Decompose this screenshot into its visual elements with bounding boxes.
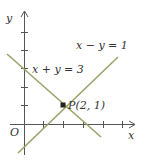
point-p-label: P(2, 1) xyxy=(67,99,105,112)
y-axis xyxy=(21,11,28,155)
point-p-marker xyxy=(61,103,66,108)
coordinate-graph: y x O x − y = 1 x + y = 3 P(2, 1) xyxy=(0,0,145,163)
y-axis-label: y xyxy=(5,12,13,25)
origin-label: O xyxy=(10,126,19,139)
x-axis xyxy=(10,121,135,128)
line-label-x-plus-y: x + y = 3 xyxy=(32,63,84,76)
line-label-x-minus-y: x − y = 1 xyxy=(76,39,128,52)
x-axis-label: x xyxy=(128,129,135,142)
